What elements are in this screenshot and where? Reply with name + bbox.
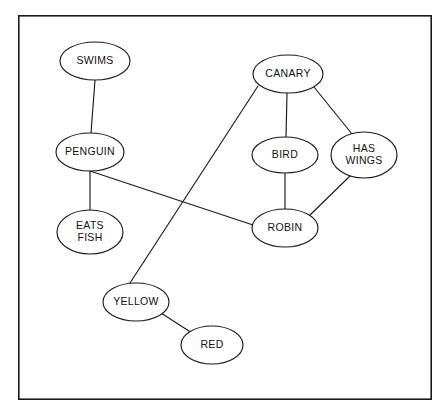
node-canary[interactable]: CANARY: [253, 55, 323, 93]
node-label-penguin: PENGUIN: [65, 145, 115, 157]
node-label-red: RED: [200, 338, 223, 350]
node-penguin[interactable]: PENGUIN: [56, 133, 124, 171]
node-label-has_wings: WINGS: [345, 154, 382, 166]
network-canvas: SWIMSPENGUINEATSFISHCANARYBIRDHASWINGSRO…: [0, 0, 447, 416]
node-label-bird: BIRD: [272, 148, 298, 160]
node-yellow[interactable]: YELLOW: [103, 283, 169, 321]
node-label-eats_fish: EATS: [76, 219, 104, 231]
semantic-network-diagram: SWIMSPENGUINEATSFISHCANARYBIRDHASWINGSRO…: [0, 0, 447, 416]
node-swims[interactable]: SWIMS: [60, 42, 130, 80]
node-bird[interactable]: BIRD: [252, 137, 318, 173]
node-label-canary: CANARY: [265, 67, 310, 79]
node-label-robin: ROBIN: [268, 221, 303, 233]
node-red[interactable]: RED: [181, 326, 243, 364]
node-has_wings[interactable]: HASWINGS: [331, 132, 397, 178]
node-label-yellow: YELLOW: [113, 295, 159, 307]
node-label-swims: SWIMS: [76, 54, 113, 66]
node-label-has_wings: HAS: [353, 142, 376, 154]
node-eats_fish[interactable]: EATSFISH: [57, 210, 123, 254]
node-robin[interactable]: ROBIN: [252, 209, 318, 247]
node-label-eats_fish: FISH: [77, 231, 102, 243]
